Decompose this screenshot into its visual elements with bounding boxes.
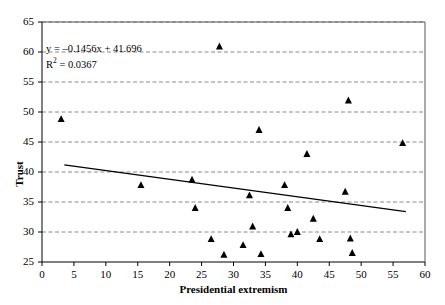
y-tick-label: 55 xyxy=(6,75,34,87)
x-tick-label: 0 xyxy=(27,268,57,280)
r-squared-prefix: R xyxy=(46,59,53,70)
x-tick-label: 30 xyxy=(219,268,249,280)
y-tick-label: 60 xyxy=(6,45,34,57)
x-axis-title: Presidential extremism xyxy=(42,283,425,295)
x-tick-label: 55 xyxy=(378,268,408,280)
x-tick-label: 5 xyxy=(59,268,89,280)
y-tick-label: 30 xyxy=(6,225,34,237)
r-squared-line: R2 = 0.0367 xyxy=(46,56,142,72)
regression-annotation: y = –0.1456x + 41.696 R2 = 0.0367 xyxy=(46,42,142,72)
y-tick-marks-group xyxy=(38,22,42,262)
y-axis-title: Trust xyxy=(13,144,25,204)
x-tick-label: 20 xyxy=(155,268,185,280)
x-tick-label: 50 xyxy=(346,268,376,280)
x-tick-marks-group xyxy=(42,262,425,266)
y-tick-label: 65 xyxy=(6,15,34,27)
x-tick-label: 40 xyxy=(282,268,312,280)
regression-equation: y = –0.1456x + 41.696 xyxy=(46,42,142,56)
y-tick-label: 50 xyxy=(6,105,34,117)
x-tick-label: 60 xyxy=(410,268,440,280)
x-tick-label: 25 xyxy=(187,268,217,280)
r-squared-value: = 0.0367 xyxy=(57,59,97,70)
x-tick-label: 45 xyxy=(314,268,344,280)
x-tick-label: 35 xyxy=(250,268,280,280)
x-tick-label: 10 xyxy=(91,268,121,280)
x-tick-label: 15 xyxy=(123,268,153,280)
scatter-chart-figure: 253035404550556065 051015202530354045505… xyxy=(0,0,445,305)
y-tick-label: 25 xyxy=(6,255,34,267)
data-points-group xyxy=(58,43,407,258)
